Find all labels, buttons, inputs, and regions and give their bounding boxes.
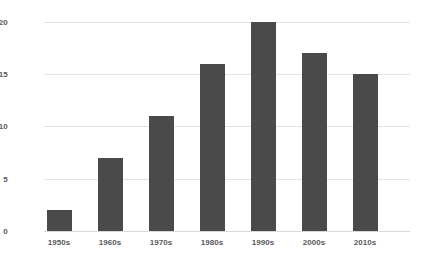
bar-2000s[interactable] <box>302 53 327 231</box>
y-tick-label-10: 10 <box>0 122 8 131</box>
bar-1980s[interactable] <box>200 64 225 231</box>
y-tick-label-0: 0 <box>0 227 8 236</box>
bars-layer <box>44 22 410 231</box>
y-tick-label-5: 5 <box>0 175 8 184</box>
bar-1970s[interactable] <box>149 116 174 231</box>
axis-line-x <box>44 231 410 232</box>
bar-chart: 20 15 10 5 0 1950s 1960s 1970s 1980s 199… <box>0 0 422 264</box>
y-tick-label-15: 15 <box>0 70 8 79</box>
y-tick-label-20: 20 <box>0 18 8 27</box>
bar-1960s[interactable] <box>98 158 123 231</box>
bar-2010s[interactable] <box>353 74 378 231</box>
bar-1950s[interactable] <box>47 210 72 231</box>
bar-1990s[interactable] <box>251 22 276 231</box>
x-tick-label-2010s: 2010s <box>335 238 395 247</box>
